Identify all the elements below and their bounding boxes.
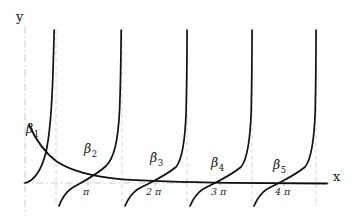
tangent-branch-3 [190,30,252,206]
x-axis-label: x [333,169,340,184]
root-label-beta-2: β2 [84,141,97,159]
tangent-branch-0 [25,30,54,183]
tick-label-3pi: 3 π [211,186,226,197]
root-label-beta-3: β3 [150,150,163,168]
root-subscript-beta-3: 3 [157,158,163,168]
root-label-beta-5: β5 [273,157,286,175]
y-axis-label: y [16,9,23,24]
root-subscript-beta-4: 4 [218,163,224,173]
math-figure: y x π 2 π 3 π 4 π β1 β2 β3 β4 β5 [0,0,360,221]
root-subscript-beta-2: 2 [91,149,97,159]
plot-canvas [0,0,360,221]
tick-label-2pi: 2 π [146,186,161,197]
tick-label-pi: π [83,186,89,197]
root-label-beta-4: β4 [211,155,224,173]
tangent-branch-4 [254,30,316,206]
tangent-branch-group [25,30,316,206]
root-subscript-beta-5: 5 [280,165,286,175]
tick-label-4pi: 4 π [275,186,290,197]
root-subscript-beta-1: 1 [33,129,39,139]
root-label-beta-1: β1 [26,121,39,139]
decreasing-curve [29,125,327,184]
tangent-branch-1 [59,30,121,206]
